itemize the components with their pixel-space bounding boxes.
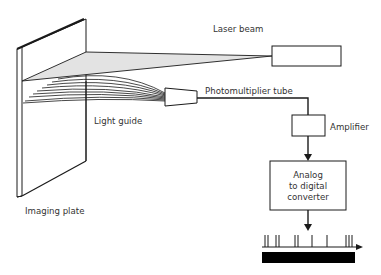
time-axis-arrowhead [356,244,363,250]
label-light-guide: Light guide [94,116,142,126]
label-amplifier: Amplifier [330,122,369,132]
label-imaging-plate: Imaging plate [25,206,84,216]
digital-pulse-train [262,235,363,250]
pmt-amplifier-wire [197,98,308,115]
label-photomultiplier-tube: Photomultiplier tube [205,86,293,96]
imaging-plate [17,19,86,197]
label-adc-line3: converter [287,192,329,202]
label-adc-line2: to digital [289,181,327,191]
digital-signal-bar [262,252,355,263]
photomultiplier-tube [165,88,197,106]
arrow-adc-to-output [304,210,312,231]
label-laser-beam: Laser beam [213,24,263,34]
laser-beam [22,52,272,81]
light-guide-fibers [23,76,165,103]
arrow-amplifier-to-adc [304,136,312,161]
label-adc-line1: Analog [293,170,323,180]
amplifier-box [292,115,325,136]
imaging-plate-readout-diagram: Laser beam Photomultiplier tube Light gu… [0,0,381,275]
laser-box [272,46,341,66]
